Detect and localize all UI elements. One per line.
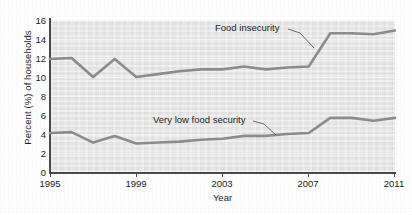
x-tick-1999: 1999	[116, 178, 156, 189]
y-tick-2: 2	[26, 148, 46, 159]
y-tick-12: 12	[26, 53, 46, 64]
x-tick-1995: 1995	[30, 178, 70, 189]
gridline-10	[50, 77, 395, 78]
x-tick-2003: 2003	[202, 178, 242, 189]
gridline-16	[50, 20, 395, 21]
gridline-4	[50, 134, 395, 135]
x-tick-mark-1999	[136, 172, 137, 177]
y-tick-14: 14	[26, 34, 46, 45]
x-tick-mark-2007	[308, 172, 309, 177]
x-tick-mark-2003	[222, 172, 223, 177]
x-tick-2007: 2007	[288, 178, 328, 189]
gridline-12	[50, 58, 395, 59]
y-tick-8: 8	[26, 91, 46, 102]
annotation-very-low-food-security: Very low food security	[153, 114, 245, 125]
gridline-2	[50, 153, 395, 154]
plot-area	[50, 20, 395, 172]
chart-figure: Percent (%) of households 16 14 12 10 8 …	[0, 0, 412, 215]
y-tick-4: 4	[26, 129, 46, 140]
gridline-8	[50, 96, 395, 97]
y-tick-0: 0	[26, 167, 46, 178]
y-axis-line	[49, 18, 51, 174]
y-tick-10: 10	[26, 72, 46, 83]
y-tick-6: 6	[26, 110, 46, 121]
y-tick-16: 16	[26, 15, 46, 26]
annotation-food-insecurity: Food insecurity	[215, 22, 279, 33]
x-axis-title: Year	[50, 192, 395, 203]
x-tick-mark-1995	[50, 172, 51, 177]
gridline-14	[50, 39, 395, 40]
x-tick-2011: 2011	[374, 178, 412, 189]
x-tick-mark-2011	[394, 172, 395, 177]
